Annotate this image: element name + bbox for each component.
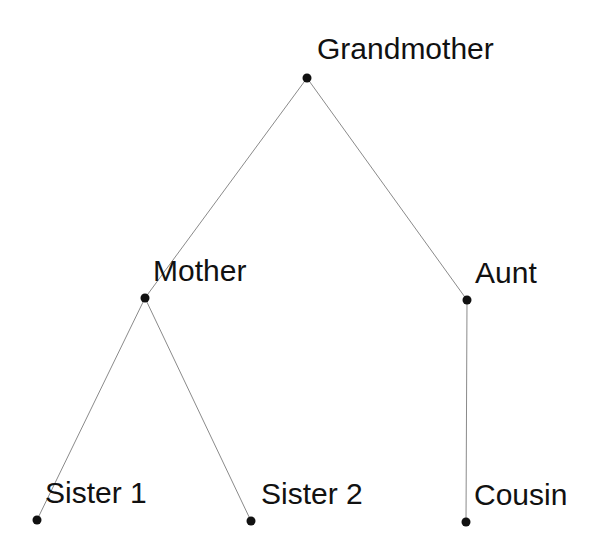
node-dot-aunt — [463, 296, 472, 305]
node-label-sister-1: Sister 1 — [45, 478, 147, 508]
node-label-mother: Mother — [153, 256, 246, 286]
node-label-grandmother: Grandmother — [317, 34, 494, 64]
node-label-sister-2: Sister 2 — [261, 479, 363, 509]
edge-aunt-cousin — [466, 300, 467, 522]
edge-mother-sister2 — [145, 298, 251, 521]
node-label-aunt: Aunt — [475, 258, 537, 288]
node-label-cousin: Cousin — [474, 480, 567, 510]
node-dot-cousin — [462, 518, 471, 527]
edge-grandmother-aunt — [307, 78, 467, 300]
node-dot-mother — [141, 294, 150, 303]
node-dot-grandmother — [303, 74, 312, 83]
node-dot-sister2 — [247, 517, 256, 526]
node-dot-sister1 — [33, 516, 42, 525]
nodes — [33, 74, 472, 527]
edges — [37, 78, 467, 522]
